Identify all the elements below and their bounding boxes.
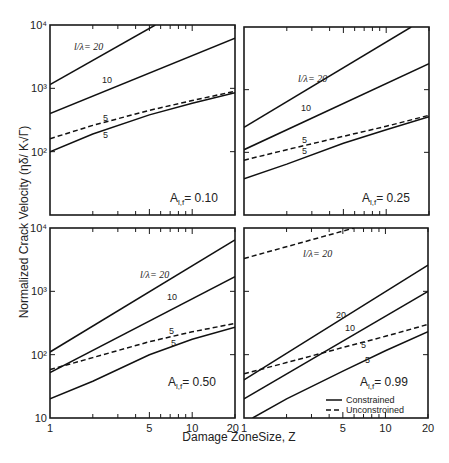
series-line	[244, 228, 354, 259]
series-label: 5	[302, 135, 307, 145]
series-label: 20	[336, 310, 346, 320]
y-axis-label: Normalized Crack Velocity (ηδ/ K√Γ)	[17, 126, 31, 319]
series-label: 5	[302, 146, 307, 156]
series-label: 5	[365, 355, 370, 365]
y-tick-label: 10³	[31, 82, 47, 94]
series-line	[50, 91, 235, 139]
y-tick-label: 10²	[31, 349, 47, 361]
x-tick-label: 5	[146, 422, 152, 434]
y-tick-label: 10⁴	[30, 222, 47, 234]
series-label: 5	[169, 326, 174, 336]
series-label: l/λ= 20	[303, 248, 332, 259]
series-label: 5	[361, 340, 366, 350]
series-line	[244, 27, 411, 127]
x-tick-label: 5	[340, 422, 346, 434]
y-tick-label: 10⁴	[30, 19, 47, 31]
panel-top-left: 10⁴10³10²l/λ= 201055Al,f= 0.10	[30, 19, 235, 215]
x-tick-label: 10	[379, 422, 391, 434]
panel-annotation: Al,f= 0.10	[170, 191, 218, 207]
x-tick-label: 20	[422, 422, 434, 434]
series-label: 10	[301, 103, 311, 113]
series-line	[244, 117, 429, 179]
series-label: l/λ= 20	[298, 73, 327, 84]
y-tick-label: 10	[35, 412, 47, 424]
plot-frame	[244, 27, 429, 215]
series-line	[244, 265, 428, 380]
series-label: 10	[345, 323, 355, 333]
panel-annotation: Al,f= 0.99	[360, 375, 408, 391]
series-label: 5	[171, 338, 176, 348]
legend-unconstrained: Unconstroined	[346, 405, 404, 415]
y-tick-label: 10²	[31, 146, 47, 158]
series-label: l/λ= 20	[140, 269, 169, 280]
series-line	[244, 115, 429, 160]
panel-annotation: Al,f= 0.50	[168, 375, 216, 391]
series-label: 10	[167, 292, 177, 302]
series-line	[50, 324, 235, 370]
figure-grid: 10⁴10³10²l/λ= 201055Al,f= 0.10 l/λ= 2010…	[0, 0, 449, 463]
series-label: 10	[102, 75, 112, 85]
y-tick-label: 10³	[31, 285, 47, 297]
legend-constrained: Constrained	[346, 395, 395, 405]
series-label: 5	[103, 113, 108, 123]
panel-annotation: Al,f= 0.25	[362, 191, 410, 207]
panel-bottom-right: 151020l/λ= 20201055Al,f= 0.99	[241, 228, 434, 434]
x-axis-label: Damage ZoneSize, Z	[182, 430, 295, 444]
plot-frame	[50, 25, 235, 215]
panel-top-right: l/λ= 201055Al,f= 0.25	[244, 27, 429, 215]
series-line	[244, 324, 428, 373]
series-label: l/λ= 20	[74, 41, 103, 52]
x-tick-label: 1	[47, 422, 53, 434]
panel-bottom-left: 10⁴10³10²10151020l/λ= 201055Al,f= 0.50	[30, 222, 239, 434]
legend: Constrained Unconstroined	[326, 395, 404, 415]
series-line	[244, 64, 429, 150]
series-label: 5	[103, 130, 108, 140]
